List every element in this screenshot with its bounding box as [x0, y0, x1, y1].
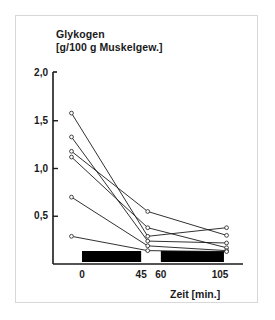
data-point-marker	[146, 249, 150, 253]
data-point-marker	[146, 210, 150, 214]
glycogen-depletion-chart: Glykogen [g/100 g Muskelgew.] 0,5 1,0 1,…	[0, 0, 275, 320]
plot-area	[0, 0, 275, 320]
data-point-marker	[146, 239, 150, 243]
exercise-bar-2	[161, 251, 224, 262]
data-line	[71, 151, 226, 235]
data-point-marker	[225, 241, 229, 245]
data-point-marker	[70, 234, 74, 238]
data-point-marker	[146, 226, 150, 230]
data-point-marker	[146, 234, 150, 238]
data-point-marker	[70, 195, 74, 199]
data-point-marker	[70, 135, 74, 139]
data-point-marker	[70, 149, 74, 153]
data-point-marker	[225, 233, 229, 237]
exercise-bar-1	[82, 251, 141, 262]
data-line	[71, 157, 226, 248]
data-line	[71, 113, 226, 236]
data-point-marker	[225, 226, 229, 230]
data-point-marker	[225, 250, 229, 254]
data-point-marker	[70, 155, 74, 159]
data-point-marker	[70, 111, 74, 115]
data-point-marker	[146, 244, 150, 248]
